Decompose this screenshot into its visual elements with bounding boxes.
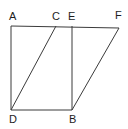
vertex-label-c: C xyxy=(52,11,60,22)
geometry-figure: A C E F D B xyxy=(0,0,128,129)
vertex-label-a: A xyxy=(9,11,16,22)
segment-A-F-top xyxy=(11,26,119,28)
segment-B-F-diagonal xyxy=(72,28,119,110)
segment-D-C-diagonal xyxy=(11,26,56,110)
vertex-label-b: B xyxy=(69,114,76,125)
vertex-label-f: F xyxy=(115,10,122,21)
vertex-label-d: D xyxy=(9,114,17,125)
figure-canvas xyxy=(0,0,128,129)
vertex-label-e: E xyxy=(68,11,75,22)
